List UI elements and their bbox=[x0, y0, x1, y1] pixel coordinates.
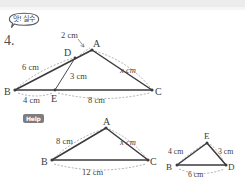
label-b-2: B bbox=[41, 156, 48, 167]
label-d: D bbox=[64, 47, 71, 58]
label-c: C bbox=[155, 86, 162, 97]
vertex-b-dot-3 bbox=[176, 164, 179, 167]
label-a-2: A bbox=[103, 116, 111, 127]
scan-edge-band-2 bbox=[0, 7, 245, 10]
label-e: E bbox=[51, 93, 57, 104]
label-d-3: D bbox=[228, 162, 235, 172]
measure-be-2: 4 cm bbox=[168, 147, 183, 156]
label-b-3: B bbox=[166, 162, 172, 172]
worksheet-page: 앗! 실수 4. Help B C A D E 2 cm bbox=[0, 0, 245, 183]
label-e-3: E bbox=[204, 131, 210, 141]
figure-help-triangle-abc: B C A 8 cm x cm 12 cm bbox=[38, 115, 160, 177]
figure-help-triangle-bed: B D E 4 cm 3 cm 6 cm bbox=[160, 126, 245, 178]
measure-ac: x cm bbox=[119, 65, 136, 75]
vertex-b-dot bbox=[13, 88, 16, 91]
scan-edge-band bbox=[0, 0, 245, 7]
measure-bd-2: 6 cm bbox=[188, 170, 203, 179]
vertex-e-dot-3 bbox=[206, 142, 209, 145]
measure-ed: 3 cm bbox=[218, 147, 233, 156]
measure-de: 3 cm bbox=[70, 71, 87, 81]
measure-ab: 8 cm bbox=[56, 136, 73, 146]
vertex-e-dot bbox=[54, 89, 57, 92]
bubble-label: 앗! 실수 bbox=[9, 14, 39, 25]
label-c-2: C bbox=[150, 156, 157, 167]
vertex-c-dot bbox=[150, 88, 153, 91]
measure-ac-2: x cm bbox=[119, 137, 136, 147]
vertex-d-dot bbox=[74, 57, 77, 60]
measure-bd: 6 cm bbox=[22, 62, 39, 72]
measure-da: 2 cm bbox=[61, 30, 78, 40]
measure-be: 4 cm bbox=[23, 95, 40, 105]
label-a: A bbox=[93, 38, 101, 49]
label-b: B bbox=[4, 86, 11, 97]
vertex-b-dot-2 bbox=[50, 158, 53, 161]
measure-ec: 8 cm bbox=[88, 95, 105, 105]
figure-main-triangle: B C A D E 2 cm 6 cm x cm 3 cm 4 cm 8 cm bbox=[0, 28, 175, 108]
measure-bc: 12 cm bbox=[82, 167, 103, 177]
